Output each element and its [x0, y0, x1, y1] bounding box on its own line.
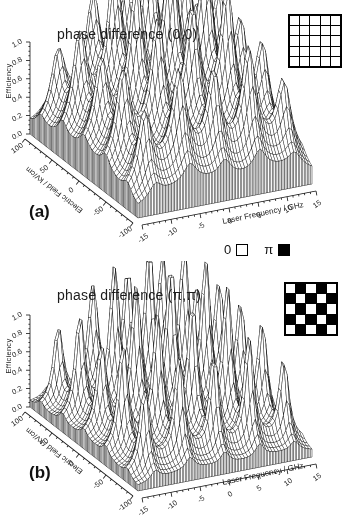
phase-mask-cell — [321, 47, 330, 56]
phase-mask-cell — [310, 47, 319, 56]
phase-mask-cell — [317, 294, 326, 303]
panel-a-letter: (a) — [29, 202, 50, 222]
phase-mask-cell — [321, 36, 330, 45]
legend-zero-swatch — [236, 244, 248, 256]
phase-mask-cell — [317, 325, 326, 334]
phase-mask-inset-a — [288, 14, 342, 68]
phase-mask-cell — [296, 294, 305, 303]
phase-mask-cell — [327, 284, 336, 293]
panel-b: -15-10-5051015-100-500501000.00.20.40.60… — [0, 261, 355, 521]
phase-mask-cell — [296, 284, 305, 293]
panel-a: -15-10-5051015-100-500501000.00.20.40.60… — [0, 0, 355, 261]
phase-mask-inset-b — [284, 282, 338, 336]
panel-b-letter: (b) — [29, 463, 51, 483]
phase-mask-cell — [327, 315, 336, 324]
phase-mask-cell — [306, 325, 315, 334]
phase-mask-cell — [296, 325, 305, 334]
phase-mask-cell — [310, 26, 319, 35]
phase-mask-cell — [310, 36, 319, 45]
legend-pi-label: π — [264, 242, 273, 257]
panel-a-title: phase difference (0,0) — [57, 26, 197, 42]
phase-mask-cell — [290, 57, 299, 66]
phase-mask-cell — [286, 294, 295, 303]
legend-pi-swatch — [278, 244, 290, 256]
phase-legend: 0 π — [224, 242, 290, 257]
phase-mask-cell — [300, 47, 309, 56]
phase-mask-cell — [321, 26, 330, 35]
phase-mask-cell — [331, 57, 340, 66]
phase-mask-cell — [327, 325, 336, 334]
phase-mask-cell — [331, 47, 340, 56]
phase-mask-cell — [306, 304, 315, 313]
phase-mask-cell — [317, 304, 326, 313]
phase-mask-cell — [286, 284, 295, 293]
phase-mask-cell — [317, 315, 326, 324]
phase-mask-cell — [290, 16, 299, 25]
phase-mask-cell — [290, 36, 299, 45]
phase-mask-cell — [306, 315, 315, 324]
phase-mask-cell — [300, 57, 309, 66]
phase-mask-cell — [321, 57, 330, 66]
panel-b-title: phase difference (π,π) — [57, 287, 201, 303]
legend-zero-label: 0 — [224, 242, 231, 257]
phase-mask-cell — [310, 57, 319, 66]
phase-mask-cell — [310, 16, 319, 25]
phase-mask-cell — [331, 26, 340, 35]
phase-mask-cell — [321, 16, 330, 25]
phase-mask-cell — [286, 304, 295, 313]
phase-mask-cell — [286, 325, 295, 334]
phase-mask-cell — [296, 304, 305, 313]
phase-mask-cell — [331, 16, 340, 25]
phase-mask-cell — [300, 26, 309, 35]
phase-mask-cell — [290, 26, 299, 35]
phase-mask-cell — [317, 284, 326, 293]
z-axis-label-a: Efficiency — [4, 64, 13, 99]
phase-mask-cell — [331, 36, 340, 45]
phase-mask-cell — [306, 294, 315, 303]
phase-mask-cell — [327, 304, 336, 313]
phase-mask-cell — [300, 36, 309, 45]
phase-mask-cell — [286, 315, 295, 324]
figure-page: -15-10-5051015-100-500501000.00.20.40.60… — [0, 0, 355, 521]
phase-mask-cell — [300, 16, 309, 25]
z-axis-label-b: Efficiency — [4, 339, 13, 374]
phase-mask-cell — [306, 284, 315, 293]
phase-mask-cell — [296, 315, 305, 324]
phase-mask-cell — [327, 294, 336, 303]
phase-mask-cell — [290, 47, 299, 56]
